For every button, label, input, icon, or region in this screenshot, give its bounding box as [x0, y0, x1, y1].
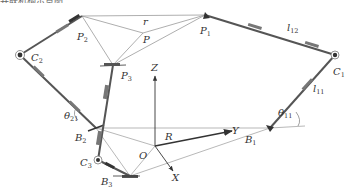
leg-1	[203, 12, 339, 132]
base-platform	[96, 126, 305, 176]
label-R: R	[164, 131, 173, 142]
label-C2: C2	[31, 52, 43, 65]
label-O: O	[139, 150, 147, 161]
label-B2: B2	[74, 132, 87, 145]
label-theta21: θ21	[64, 110, 78, 123]
label-l11: l11	[313, 83, 324, 96]
label-X-axis: X	[171, 172, 180, 183]
label-C3: C3	[80, 157, 92, 170]
label-Y-axis: Y	[232, 125, 240, 136]
label-P3: P3	[120, 70, 132, 83]
label-B1: B1	[244, 134, 257, 147]
parallel-mechanism-diagram: r P P1 P2 P3 C1 C2 C3 B1 B2 B3 l12 l11 θ…	[0, 0, 352, 194]
theta11-arc	[296, 112, 300, 126]
leg-3	[94, 63, 140, 178]
label-P: P	[142, 34, 150, 45]
label-C1: C1	[333, 66, 345, 79]
label-Z-axis: Z	[150, 62, 159, 73]
coordinate-axes	[155, 76, 232, 171]
label-P1: P1	[199, 25, 211, 38]
label-P2: P2	[76, 31, 88, 44]
label-l12: l12	[287, 22, 298, 35]
leg-2	[16, 14, 105, 131]
label-r: r	[143, 16, 149, 27]
label-B3: B3	[100, 176, 113, 189]
